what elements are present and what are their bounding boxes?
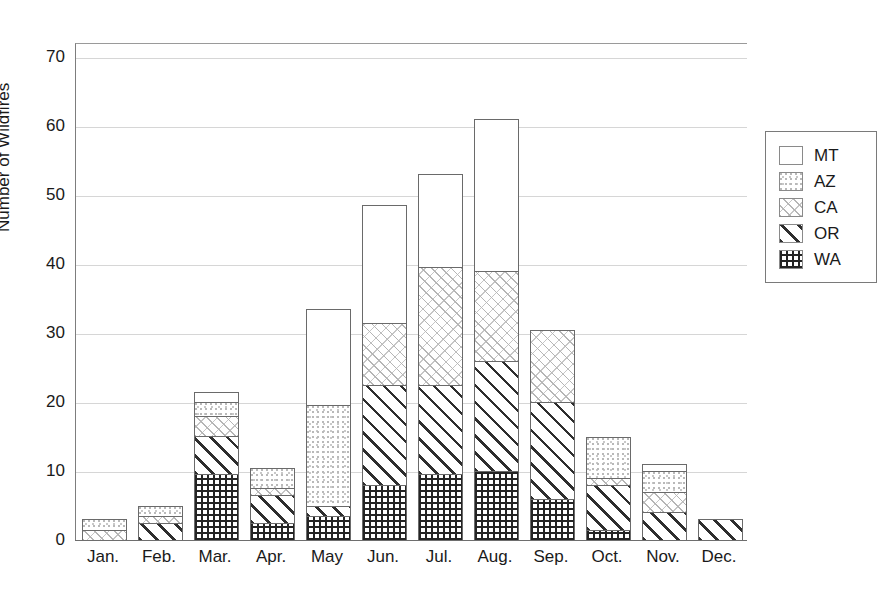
bar-segment-wa [586, 530, 631, 540]
bar-segment-or [306, 506, 351, 516]
legend-swatch-az-icon [779, 172, 803, 191]
bar-segment-wa [530, 499, 575, 540]
y-tick-label: 30 [19, 323, 65, 343]
x-tick-label: Sep. [523, 547, 579, 567]
bar-segment-ca [250, 488, 295, 495]
bar-apr [250, 468, 295, 540]
y-tick-label: 40 [19, 254, 65, 274]
bar-segment-mt [194, 392, 239, 402]
legend-item-wa[interactable]: WA [766, 246, 876, 272]
bar-dec [698, 519, 743, 540]
bar-segment-mt [306, 309, 351, 406]
bar-nov [642, 464, 687, 540]
bar-feb [138, 506, 183, 540]
gridline [76, 334, 747, 335]
bar-may [306, 309, 351, 540]
bar-segment-az [250, 468, 295, 489]
bar-segment-ca [194, 416, 239, 437]
bar-segment-ca [642, 492, 687, 513]
x-tick-label: Jan. [75, 547, 131, 567]
legend-label: CA [814, 199, 838, 216]
bar-segment-az [82, 519, 127, 529]
bar-segment-or [530, 402, 575, 499]
y-axis-label: Number of Wildfires [0, 83, 14, 232]
y-tick-label: 10 [19, 461, 65, 481]
bar-segment-or [474, 361, 519, 471]
gridline [76, 127, 747, 128]
bar-segment-mt [642, 464, 687, 471]
x-tick-label: Oct. [579, 547, 635, 567]
legend-swatch-ca-icon [779, 198, 803, 217]
bar-segment-wa [362, 485, 407, 540]
legend-item-mt[interactable]: MT [766, 142, 876, 168]
legend-label: AZ [814, 173, 836, 190]
x-axis-line [75, 540, 747, 541]
bar-segment-or [418, 385, 463, 475]
bar-segment-or [194, 436, 239, 474]
bar-segment-wa [474, 471, 519, 540]
gridline [76, 265, 747, 266]
x-tick-label: May [299, 547, 355, 567]
bar-segment-ca [586, 478, 631, 485]
legend: MTAZCAORWA [765, 131, 877, 283]
bar-segment-or [362, 385, 407, 485]
bar-segment-az [138, 506, 183, 516]
bar-segment-or [698, 519, 743, 540]
bar-segment-or [250, 495, 295, 523]
bar-segment-ca [362, 323, 407, 385]
x-tick-label: Apr. [243, 547, 299, 567]
bar-segment-az [642, 471, 687, 492]
bar-segment-or [138, 523, 183, 540]
legend-label: WA [814, 251, 841, 268]
legend-item-or[interactable]: OR [766, 220, 876, 246]
bar-sep [530, 330, 575, 541]
bar-segment-ca [418, 267, 463, 384]
bar-jul [418, 174, 463, 540]
bar-oct [586, 437, 631, 541]
x-tick-label: Jul. [411, 547, 467, 567]
legend-item-ca[interactable]: CA [766, 194, 876, 220]
bar-segment-mt [362, 205, 407, 322]
bar-segment-or [642, 512, 687, 540]
x-tick-label: Dec. [691, 547, 747, 567]
bar-segment-wa [194, 474, 239, 540]
bar-segment-ca [82, 530, 127, 540]
y-tick-label: 70 [19, 47, 65, 67]
x-tick-label: Feb. [131, 547, 187, 567]
plot-region [75, 43, 747, 540]
bar-segment-ca [138, 516, 183, 523]
bar-jan [82, 519, 127, 540]
legend-label: OR [814, 225, 840, 242]
y-tick-label: 60 [19, 116, 65, 136]
bar-segment-az [194, 402, 239, 416]
bar-jun [362, 205, 407, 540]
gridline [76, 403, 747, 404]
bar-segment-mt [418, 174, 463, 267]
y-tick-label: 50 [19, 185, 65, 205]
bar-segment-or [586, 485, 631, 530]
y-tick-label: 20 [19, 392, 65, 412]
bar-segment-wa [250, 523, 295, 540]
bar-segment-wa [418, 474, 463, 540]
legend-swatch-mt-icon [779, 146, 803, 165]
x-tick-label: Jun. [355, 547, 411, 567]
bar-segment-wa [306, 516, 351, 540]
bar-segment-az [586, 437, 631, 478]
gridline [76, 196, 747, 197]
bar-segment-az [306, 405, 351, 505]
y-tick-label: 0 [19, 530, 65, 550]
x-tick-label: Nov. [635, 547, 691, 567]
legend-swatch-or-icon [779, 224, 803, 243]
bar-segment-mt [474, 119, 519, 271]
legend-swatch-wa-icon [779, 250, 803, 269]
bar-mar [194, 392, 239, 540]
bar-segment-ca [474, 271, 519, 361]
legend-label: MT [814, 147, 839, 164]
x-tick-label: Aug. [467, 547, 523, 567]
gridline [76, 58, 747, 59]
bar-segment-ca [530, 330, 575, 402]
bar-aug [474, 119, 519, 540]
x-tick-label: Mar. [187, 547, 243, 567]
legend-item-az[interactable]: AZ [766, 168, 876, 194]
wildfire-stacked-bar-chart: Number of Wildfires MTAZCAORWA 010203040… [0, 0, 896, 598]
